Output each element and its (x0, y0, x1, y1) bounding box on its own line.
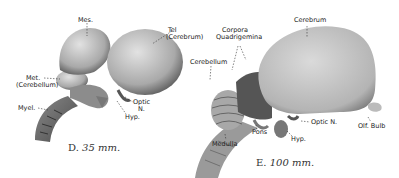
label-mes: Mes. (78, 17, 93, 24)
label-cerebrum: Cerebrum (294, 17, 326, 24)
label-optic-2: N. (138, 106, 145, 113)
label-optic-e: Optic N. (311, 119, 337, 126)
label-corpora-2: Quadrigemina (216, 34, 262, 41)
caption-d-letter: D. (68, 142, 79, 153)
caption-e-size: 100 mm. (270, 157, 314, 168)
caption-e: E. 100 mm. (256, 157, 314, 168)
d-myelencephalon-shape (35, 96, 78, 142)
d-mesencephalon-shape (59, 28, 110, 75)
caption-d-size: 35 mm. (82, 142, 120, 153)
label-pons: Pons (252, 129, 267, 136)
label-met-2: (Cerebellum) (16, 82, 58, 89)
figure-e (195, 26, 382, 178)
label-cerebellum: Cerebellum (190, 59, 227, 66)
e-cerebrum-shape (258, 26, 375, 114)
label-myel: Myel. (18, 105, 35, 112)
label-olf-bulb: Olf. Bulb (358, 123, 385, 130)
label-hyp-d: Hyp. (125, 114, 140, 121)
caption-e-letter: E. (256, 157, 266, 168)
e-hypophysis-shape (274, 120, 288, 138)
brain-illustration (0, 0, 399, 178)
caption-d: D. 35 mm. (68, 142, 120, 153)
label-tel-2: (Cerebrum) (166, 34, 203, 41)
label-medulla: Medulla (212, 141, 237, 148)
label-hyp-e: Hyp. (291, 136, 306, 143)
